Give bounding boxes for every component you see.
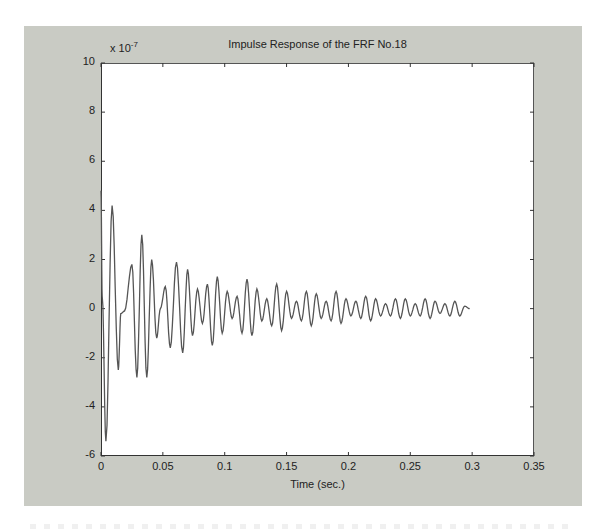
- x-tick-label: 0.35: [514, 460, 554, 472]
- x-tick-label: 0.2: [328, 460, 368, 472]
- y-tick-label: 6: [65, 153, 95, 165]
- y-tick-label: -6: [65, 448, 95, 460]
- axis-ticks: [101, 63, 534, 456]
- y-tick-label: -4: [65, 399, 95, 411]
- x-tick-label: 0.05: [143, 460, 183, 472]
- y-tick-label: 4: [65, 202, 95, 214]
- y-tick-label: 2: [65, 252, 95, 264]
- x-tick-label: 0.15: [267, 460, 307, 472]
- cropped-caption: [30, 524, 575, 529]
- x-tick-label: 0.25: [390, 460, 430, 472]
- x-axis-label: Time (sec.): [101, 478, 534, 490]
- y-tick-label: -2: [65, 350, 95, 362]
- y-tick-label: 0: [65, 301, 95, 313]
- x-tick-label: 0: [81, 460, 121, 472]
- y-tick-label: 8: [65, 104, 95, 116]
- x-tick-label: 0.1: [205, 460, 245, 472]
- impulse-response-line: [101, 191, 470, 442]
- x-tick-label: 0.3: [452, 460, 492, 472]
- y-tick-label: 10: [65, 55, 95, 67]
